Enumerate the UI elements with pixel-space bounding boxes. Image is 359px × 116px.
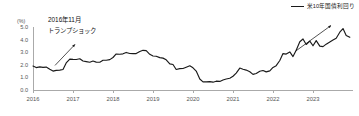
series-line-us10y xyxy=(33,29,350,83)
annotation-arrow-rate-surge xyxy=(295,25,331,51)
plot-area xyxy=(0,0,359,116)
annotation-arrow-trump-shock xyxy=(55,44,75,65)
chart-container: 米10年国債利回り (%) 0.01.02.03.04.05.0 2016201… xyxy=(0,0,359,116)
